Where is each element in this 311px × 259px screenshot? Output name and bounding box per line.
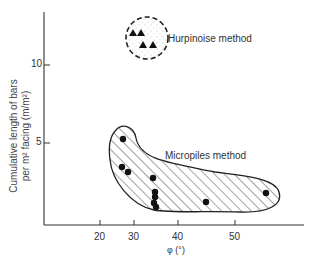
x-axis-title: φ (°): [167, 245, 185, 255]
hurpinoise-region: [126, 17, 168, 59]
xtick-label-20: 20: [94, 231, 105, 242]
y-axis-title-line2: per m² facing (m/m²): [20, 79, 32, 192]
ytick-label-5: 5: [36, 136, 42, 147]
ytick-label-10: 10: [31, 58, 42, 69]
hurpinoise-label: Hurpinoise method: [168, 33, 252, 44]
x-axis: [44, 220, 304, 225]
xtick-label-30: 30: [128, 231, 139, 242]
y-axis: [44, 12, 50, 225]
xtick-label-40: 40: [172, 231, 183, 242]
micropiles-region: [109, 126, 279, 212]
y-axis-title-line1: Cumulative length of bars: [8, 79, 20, 192]
y-axis-title: Cumulative length of bars per m² facing …: [8, 79, 32, 192]
chart-canvas: [0, 0, 311, 259]
micropiles-label: Micropiles method: [165, 150, 246, 161]
xtick-label-50: 50: [229, 231, 240, 242]
